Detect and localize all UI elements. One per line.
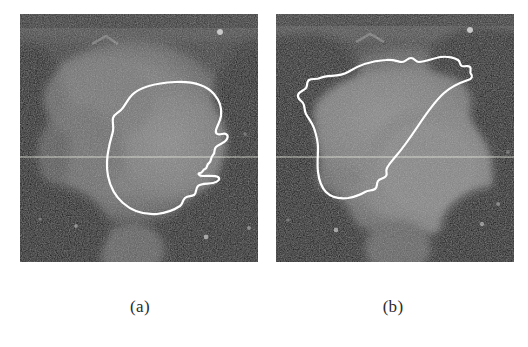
panel-b-svg (276, 14, 514, 262)
panel-a-svg (20, 14, 258, 262)
panel-b-caption: (b) (338, 297, 448, 317)
panel-a-image (20, 14, 258, 262)
panel-a-caption: (a) (85, 297, 195, 317)
panel-a-anatomy (20, 14, 258, 262)
figure-container: (a) (b) (0, 0, 528, 347)
panel-b-image (276, 14, 514, 262)
panel-b-anatomy (276, 14, 514, 262)
